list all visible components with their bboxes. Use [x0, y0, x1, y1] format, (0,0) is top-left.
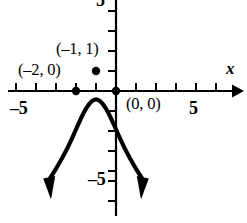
coordinate-plane-svg	[0, 0, 247, 223]
y-axis-group	[108, 0, 116, 216]
left-branch-arrowhead	[43, 176, 55, 200]
point-dot-left-root	[72, 87, 80, 95]
vertex-point-label: (–1, 1)	[56, 41, 99, 58]
x-axis-name-label: x	[226, 60, 234, 77]
point-dot-vertex	[92, 67, 100, 75]
point-dot-origin	[112, 87, 120, 95]
x-axis-tick-label-positive-5: 5	[189, 99, 198, 117]
y-axis-tick-label-negative-5: –5	[88, 170, 106, 188]
right-branch-arrowhead	[137, 176, 149, 200]
x-axis-arrowhead	[232, 85, 244, 98]
origin-point-label: (0, 0)	[126, 96, 161, 113]
y-axis-tick-label-positive-5: 5	[96, 0, 105, 9]
x-axis-tick-label-negative-5: –5	[10, 99, 28, 117]
graph-figure: (–1, 1) (–2, 0) (0, 0) –5 5 –5 5 x	[0, 0, 247, 223]
left-root-point-label: (–2, 0)	[18, 62, 61, 79]
